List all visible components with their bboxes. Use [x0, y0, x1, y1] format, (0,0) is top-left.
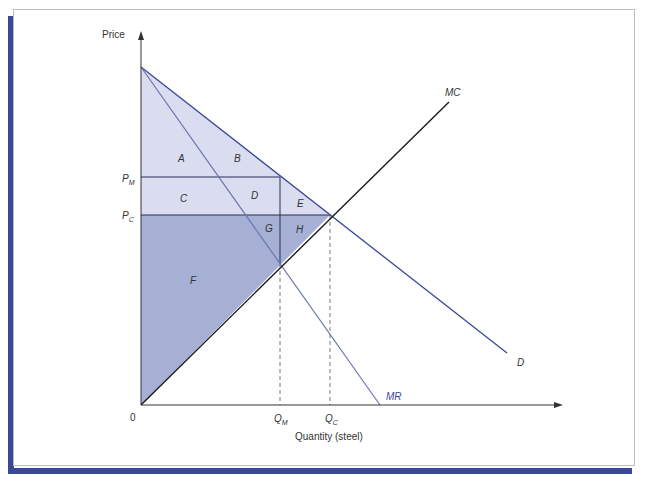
region-label-d: D: [251, 190, 258, 201]
qc-label-sub: C: [333, 419, 339, 426]
x-axis-arrow-icon: [554, 402, 563, 408]
origin-label: 0: [130, 412, 136, 423]
region-label-c: C: [180, 193, 188, 204]
region-label-a: A: [177, 153, 185, 164]
y-axis-arrow-icon: [138, 31, 144, 40]
mc-label: MC: [445, 87, 461, 98]
pm-label-sub: M: [129, 179, 135, 186]
region-label-f: F: [190, 275, 197, 286]
qc-label: QC: [325, 413, 339, 426]
d-label: D: [517, 357, 524, 368]
region-label-e: E: [297, 198, 304, 209]
pm-label: PM: [122, 173, 135, 186]
x-axis-label: Quantity (steel): [295, 431, 363, 442]
pc-label-sub: C: [129, 216, 135, 223]
pc-label: PC: [122, 210, 135, 223]
y-axis-label: Price: [102, 29, 125, 40]
mr-label: MR: [386, 391, 402, 402]
region-label-g: G: [265, 223, 273, 234]
region-label-h: H: [296, 224, 304, 235]
monopoly-steel-diagram: Price Quantity (steel) 0 MC D MR PM PC Q…: [0, 0, 645, 483]
region-label-b: B: [234, 153, 241, 164]
qm-label: QM: [274, 413, 288, 426]
qm-label-sub: M: [282, 419, 288, 426]
